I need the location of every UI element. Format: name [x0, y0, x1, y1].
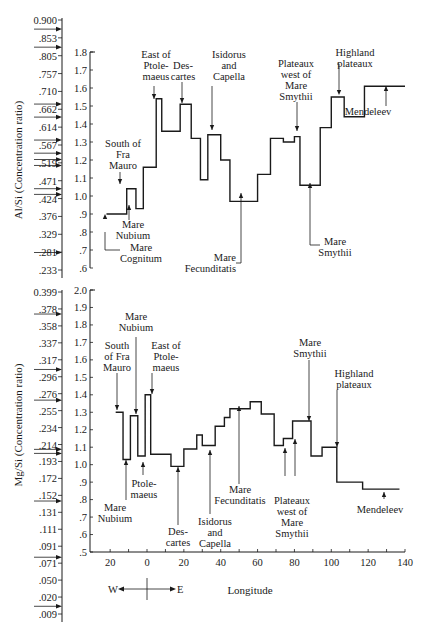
x-tick-label: 100 [323, 557, 339, 568]
plateaux-west-of-mare-smythii-label: Plateaux [274, 495, 311, 506]
plateaux-west-of-mare-smythii-label: Smythii [279, 91, 312, 102]
mare-cognitum-label: Mare [130, 242, 152, 253]
mg-si-ytick-label: 1.0 [74, 459, 87, 470]
east-arrowhead-icon [170, 587, 176, 592]
arrowhead-icon [56, 250, 62, 255]
al-si-secondary-tick-label: .424 [39, 194, 58, 205]
mare-fecunditatis-leader [236, 193, 241, 263]
arrowhead-icon [118, 179, 122, 184]
al-si-secondary-tick-label: .710 [39, 86, 57, 97]
mare-nubium-bottom-label: Mare [104, 502, 126, 513]
descartes-label: cartes [166, 537, 190, 548]
mare-nubium-top-label: Mare [125, 311, 147, 322]
arrowhead-icon [103, 214, 107, 219]
al-si-ytick-label: .8 [79, 227, 87, 238]
al-si-ytick-label: 1.0 [74, 191, 87, 202]
arrowhead-icon [56, 451, 62, 456]
mg-si-step-line [116, 395, 400, 489]
arrowhead-icon [56, 157, 62, 162]
al-si-ytick-label: 1.7 [74, 65, 87, 76]
plateaux-west-of-mare-smythii-label: Smythii [275, 528, 308, 539]
arrowhead-icon [56, 312, 62, 317]
highland-plateaux-label: plateaux [337, 58, 373, 69]
east-label: E [177, 584, 183, 595]
east-of-ptolemaeus-label: maeus [143, 71, 170, 82]
mg-si-secondary-tick-label: .255 [39, 406, 57, 417]
mg-si-secondary-tick-label: .234 [39, 423, 58, 434]
plateaux-west-of-mare-smythii-label: west of [277, 506, 308, 517]
annotation-layer: South ofFraMauroMareNubiumMareCognitumEa… [98, 47, 404, 549]
al-si-secondary-tick-label: .614 [39, 122, 58, 133]
arrowhead-icon [335, 442, 339, 447]
series-layer [106, 86, 405, 489]
mare-fecunditatis-label: Fecunditatis [185, 263, 236, 274]
al-si-ytick-label: .6 [79, 263, 87, 274]
arrowhead-icon [239, 193, 243, 198]
mg-si-secondary-tick-label: .358 [39, 321, 57, 332]
arrowhead-icon [124, 460, 128, 465]
al-si-secondary-tick-label: .853 [39, 33, 57, 44]
east-of-ptolemaeus-label: Ptole- [143, 60, 169, 71]
mare-cognitum-label: Cognitum [120, 253, 162, 264]
mg-si-secondary-tick-label: .193 [39, 456, 57, 467]
al-si-secondary-tick-label: .757 [39, 69, 57, 80]
mare-smythii-label: Smythii [293, 348, 326, 359]
arrowhead-icon [56, 138, 62, 143]
highland-plateaux-label: Highland [335, 47, 375, 58]
mg-si-ytick-label: 1.5 [74, 372, 87, 383]
mg-si-ytick-label: 1.4 [74, 389, 88, 400]
mg-si-secondary-tick-label: .152 [39, 490, 57, 501]
mg-si-secondary-tick-label: .276 [39, 389, 57, 400]
mare-smythii-label: Smythii [318, 247, 351, 258]
mg-si-secondary-tick-label: .020 [39, 592, 57, 603]
mg-si-ytick-label: 1.9 [74, 302, 87, 313]
mg-si-ytick-label: 2.0 [74, 285, 87, 296]
mg-si-ytick-label: .9 [79, 477, 87, 488]
isidorus-and-capella-label: Capella [213, 71, 245, 82]
mare-nubium-label: Mare [122, 219, 144, 230]
arrowhead-icon [293, 439, 297, 444]
isidorus-and-capella-label: Isidorus [212, 49, 246, 60]
arrowhead-icon [56, 604, 62, 609]
mg-si-ytick-label: 1.6 [74, 354, 87, 365]
al-si-ytick-label: 1.2 [74, 155, 87, 166]
mg-si-ytick-label: .8 [79, 494, 87, 505]
arrowhead-icon [208, 450, 212, 455]
arrowhead-icon [56, 555, 62, 560]
plateaux-west-of-mare-smythii-label: Plateaux [278, 58, 315, 69]
arrowhead-icon [56, 367, 62, 372]
al-si-ytick-label: 1.4 [74, 119, 88, 130]
arrowhead-icon [56, 102, 62, 107]
mare-fecunditatis-label: Fecunditatis [214, 495, 265, 506]
ptolemaeus-label: maeus [131, 489, 158, 500]
isidorus-and-capella-label: Capella [199, 538, 231, 549]
mg-si-secondary-tick-label: .111 [39, 524, 57, 535]
mg-si-ytick-label: 1.8 [74, 319, 87, 330]
arrowhead-icon [180, 98, 184, 103]
mg-si-secondary-tick-label: .317 [39, 355, 57, 366]
arrowhead-icon [56, 151, 62, 156]
x-tick-label: 20 [105, 557, 116, 568]
x-tick-label: 60 [252, 557, 263, 568]
plateaux-west-of-mare-smythii-label: Mare [285, 80, 307, 91]
mare-nubium-bottom-label: Nubium [98, 513, 132, 524]
arrowhead-icon [134, 409, 138, 414]
descartes-label: Des- [173, 60, 193, 71]
arrowhead-icon [56, 186, 62, 191]
arrowhead-icon [56, 45, 62, 50]
arrowhead-icon [56, 27, 62, 32]
mg-si-secondary-tick-label: .131 [39, 507, 57, 518]
west-arrowhead-icon [118, 587, 124, 592]
south-of-fra-mauro-label: Mauro [103, 362, 131, 373]
mare-nubium-label: Nubium [116, 230, 150, 241]
west-label: W [108, 584, 118, 595]
arrowhead-icon [127, 205, 131, 210]
mare-fecunditatis-label: Mare [214, 252, 236, 263]
mg-si-secondary-tick-label: .172 [39, 473, 57, 484]
arrowhead-icon [115, 405, 119, 410]
x-tick-label: 120 [360, 557, 376, 568]
al-si-ytick-label: 1.1 [74, 173, 87, 184]
arrowhead-icon [56, 499, 62, 504]
plateaux-west-of-mare-smythii-label: west of [281, 69, 312, 80]
mg-si-ytick-label: 1.7 [74, 337, 87, 348]
